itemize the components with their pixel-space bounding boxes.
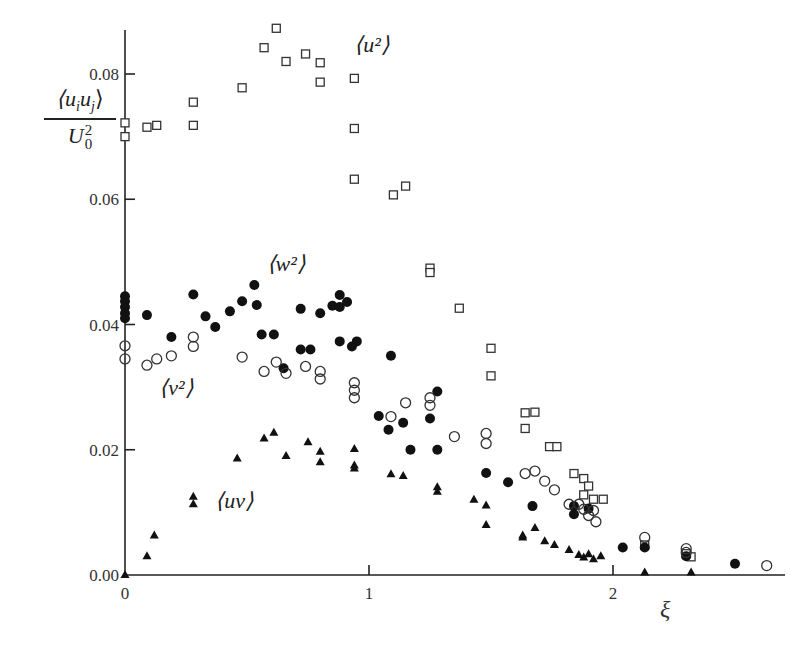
- y-tick-label: 0.00: [89, 566, 119, 585]
- square-marker: [316, 78, 324, 86]
- fraction-bar: [44, 118, 116, 120]
- triangle-marker: [640, 567, 649, 575]
- triangle-marker: [189, 492, 198, 500]
- open-circle-marker: [549, 485, 559, 495]
- filled-circle-marker: [142, 310, 152, 320]
- triangle-marker: [189, 499, 198, 507]
- series-label: ⟨u²⟩: [354, 32, 390, 57]
- filled-circle-marker: [384, 425, 394, 435]
- square-marker: [316, 59, 324, 67]
- y-tick-label: 0.04: [89, 316, 119, 335]
- triangle-marker: [350, 444, 359, 452]
- open-circle-marker: [591, 517, 601, 527]
- square-marker: [189, 98, 197, 106]
- series-filled-circle: [120, 280, 740, 569]
- triangle-marker: [316, 447, 325, 455]
- square-marker: [570, 470, 578, 478]
- triangle-marker: [540, 536, 549, 544]
- square-marker: [189, 121, 197, 129]
- filled-circle-marker: [569, 509, 579, 519]
- filled-circle-marker: [188, 289, 198, 299]
- scatter-chart: 0.000.020.040.060.08012 ⟨u²⟩⟨w²⟩⟨v²⟩⟨uv⟩: [0, 0, 802, 650]
- series-open-circle: [120, 332, 772, 571]
- open-circle-marker: [166, 351, 176, 361]
- filled-circle-marker: [352, 336, 362, 346]
- square-marker: [487, 344, 495, 352]
- open-circle-marker: [237, 352, 247, 362]
- triangle-marker: [530, 523, 539, 531]
- series-open-square: [121, 24, 695, 561]
- series-label: ⟨uv⟩: [215, 488, 254, 513]
- open-circle-marker: [349, 393, 359, 403]
- filled-circle-marker: [335, 336, 345, 346]
- triangle-marker: [482, 520, 491, 528]
- filled-circle-marker: [730, 559, 740, 569]
- series-label: ⟨v²⟩: [159, 375, 193, 400]
- triangle-marker: [233, 454, 242, 462]
- square-marker: [521, 424, 529, 432]
- square-marker: [487, 372, 495, 380]
- x-tick-label: 1: [365, 584, 374, 603]
- open-circle-marker: [425, 400, 435, 410]
- square-marker: [153, 121, 161, 129]
- filled-circle-marker: [296, 345, 306, 355]
- square-marker: [350, 124, 358, 132]
- triangle-marker: [596, 551, 605, 559]
- open-circle-marker: [142, 360, 152, 370]
- filled-circle-marker: [481, 468, 491, 478]
- open-circle-marker: [449, 432, 459, 442]
- square-marker: [599, 495, 607, 503]
- square-marker: [260, 44, 268, 52]
- filled-circle-marker: [503, 477, 513, 487]
- square-marker: [580, 475, 588, 483]
- open-circle-marker: [530, 466, 540, 476]
- filled-circle-marker: [269, 330, 279, 340]
- triangle-marker: [399, 471, 408, 479]
- triangle-marker: [269, 428, 278, 436]
- filled-circle-marker: [527, 501, 537, 511]
- filled-circle-marker: [386, 351, 396, 361]
- square-marker: [589, 495, 597, 503]
- filled-circle-marker: [296, 304, 306, 314]
- filled-circle-marker: [640, 542, 650, 552]
- open-circle-marker: [762, 561, 772, 571]
- filled-circle-marker: [405, 445, 415, 455]
- triangle-marker: [386, 469, 395, 477]
- y-label-denominator: U20: [40, 123, 120, 151]
- triangle-marker: [260, 433, 269, 441]
- open-circle-marker: [481, 428, 491, 438]
- square-marker: [389, 191, 397, 199]
- filled-circle-marker: [252, 300, 262, 310]
- open-circle-marker: [152, 354, 162, 364]
- triangle-marker: [316, 457, 325, 465]
- open-circle-marker: [188, 332, 198, 342]
- square-marker: [143, 123, 151, 131]
- square-marker: [531, 408, 539, 416]
- filled-circle-marker: [305, 345, 315, 355]
- filled-circle-marker: [374, 411, 384, 421]
- square-marker: [302, 50, 310, 58]
- open-circle-marker: [259, 366, 269, 376]
- triangle-marker: [584, 549, 593, 557]
- triangle-marker: [304, 437, 313, 445]
- square-marker: [272, 24, 280, 32]
- filled-circle-marker: [257, 330, 267, 340]
- filled-circle-marker: [120, 313, 130, 323]
- filled-circle-marker: [237, 296, 247, 306]
- open-circle-marker: [315, 374, 325, 384]
- square-marker: [521, 409, 529, 417]
- filled-circle-marker: [201, 311, 211, 321]
- y-axis-label: ⟨uiuj⟩ U20: [40, 86, 120, 151]
- x-axis-label: ξ: [660, 596, 670, 623]
- square-marker: [350, 74, 358, 82]
- triangle-marker: [687, 567, 696, 575]
- square-marker: [455, 304, 463, 312]
- square-marker: [121, 119, 129, 127]
- open-circle-marker: [401, 398, 411, 408]
- square-marker: [426, 269, 434, 277]
- filled-circle-marker: [342, 297, 352, 307]
- open-circle-marker: [188, 341, 198, 351]
- filled-circle-marker: [398, 418, 408, 428]
- x-tick-label: 2: [609, 584, 618, 603]
- open-circle-marker: [386, 412, 396, 422]
